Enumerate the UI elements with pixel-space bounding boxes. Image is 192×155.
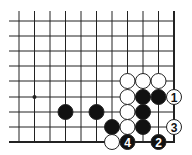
move-number-label: 2 [155, 136, 162, 150]
white-stone-move-3: 3 [167, 120, 182, 135]
white-stone [136, 74, 151, 89]
black-stone [136, 90, 151, 105]
black-stone [136, 120, 151, 135]
white-stone [120, 90, 135, 105]
black-stone [151, 90, 166, 105]
white-stone [105, 135, 120, 150]
go-board: 1342 [0, 0, 192, 155]
star-points [33, 95, 37, 99]
star-point [33, 95, 37, 99]
white-stone-move-1: 1 [167, 90, 182, 105]
black-stone [105, 120, 120, 135]
move-number-label: 3 [171, 121, 178, 135]
white-stone [120, 105, 135, 120]
black-stone [136, 105, 151, 120]
move-number-label: 4 [124, 136, 131, 150]
white-stone [151, 74, 166, 89]
white-stone [120, 120, 135, 135]
black-stone [58, 105, 73, 120]
black-stone-move-2: 2 [151, 135, 166, 150]
black-stone [89, 105, 104, 120]
white-stone [120, 74, 135, 89]
black-stone-move-4: 4 [120, 135, 135, 150]
move-number-label: 1 [171, 91, 178, 105]
